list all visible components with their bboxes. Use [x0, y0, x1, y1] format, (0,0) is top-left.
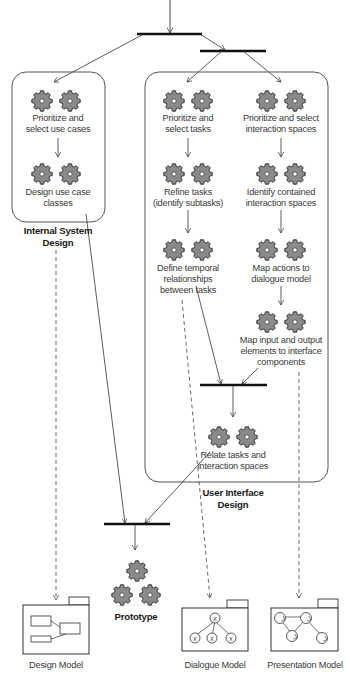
task-tree-icon: X X X X — [182, 600, 248, 651]
gear-icon-relate-tasks — [209, 427, 257, 447]
gear-icon-prioritize-tasks — [164, 91, 212, 111]
activity-label-identify-contained: Identify contained interaction spaces — [231, 187, 331, 209]
prototype-label: Prototype — [106, 611, 166, 623]
gear-icon-prototype — [112, 561, 160, 605]
gear-icon-refine-tasks — [164, 164, 212, 184]
activity-label-map-io: Map input and output elements to interfa… — [228, 335, 334, 368]
model-label-presentation: Presentation Model — [262, 660, 348, 670]
activity-label-design-use-case-classes: Design use case classes — [10, 187, 106, 209]
gear-icon-map-actions — [257, 240, 305, 260]
activity-label-refine-tasks: Refine tasks (identify subtasks) — [143, 187, 233, 209]
activity-label-prioritize-interaction-spaces: Prioritize and select interaction spaces — [231, 113, 331, 135]
model-label-dialogue: Dialogue Model — [173, 660, 257, 670]
activity-label-prioritize-use-cases: Prioritize and select use cases — [10, 113, 106, 135]
class-diagram-icon — [23, 597, 89, 654]
gear-icon-prioritize-use-cases — [32, 91, 80, 111]
svg-text:X: X — [210, 636, 214, 642]
svg-text:X: X — [229, 636, 233, 642]
group-title-user-interface-design: User Interface Design — [183, 487, 283, 510]
interaction-space-graph-icon — [271, 599, 338, 651]
gear-icon-map-io — [257, 312, 305, 332]
group-title-internal-system-design: Internal System Design — [8, 225, 108, 248]
gear-icon-identify-contained — [257, 164, 305, 184]
model-label-design: Design Model — [16, 660, 96, 670]
gear-icon-prioritize-interaction-spaces — [257, 91, 305, 111]
activity-label-relate-tasks: Relate tasks and interaction spaces — [183, 450, 283, 472]
activity-label-prioritize-tasks: Prioritize and select tasks — [143, 113, 233, 135]
dependency-arrow-dialogue-model — [182, 300, 210, 598]
svg-text:X: X — [213, 616, 217, 622]
gear-icon-define-temporal — [164, 240, 212, 260]
gear-icon-design-use-case-classes — [32, 164, 80, 184]
activity-label-define-temporal: Define temporal relationships between ta… — [143, 263, 233, 296]
svg-text:X: X — [193, 636, 197, 642]
activity-label-map-actions: Map actions to dialogue model — [231, 263, 331, 285]
